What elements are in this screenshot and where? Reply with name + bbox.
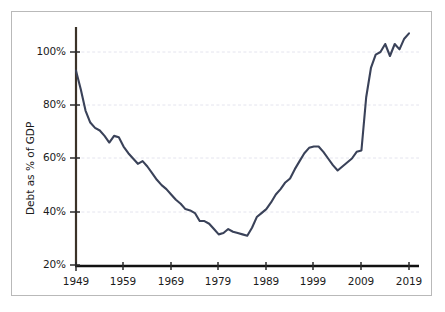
chart-figure: 100% 80% 60% 40% 20% 1949 1959 1969 1979… xyxy=(0,0,445,312)
y-tick-label-20: 20% xyxy=(26,258,66,270)
debt-gdp-line xyxy=(76,33,409,235)
x-tick-label-1989: 1989 xyxy=(242,275,290,287)
y-tick-label-100: 100% xyxy=(26,45,66,57)
x-tick-label-2019: 2019 xyxy=(385,275,433,287)
x-tick-label-1999: 1999 xyxy=(289,275,337,287)
x-tick-label-2009: 2009 xyxy=(337,275,385,287)
x-tick-label-1979: 1979 xyxy=(194,275,242,287)
y-tick-label-80: 80% xyxy=(26,98,66,110)
x-tick-label-1959: 1959 xyxy=(99,275,147,287)
chart-plot-area xyxy=(0,0,445,312)
x-tick-label-1969: 1969 xyxy=(147,275,195,287)
x-tick-label-1949: 1949 xyxy=(52,275,100,287)
y-axis-title: Debt as % of GDP xyxy=(24,122,36,215)
gridlines xyxy=(76,52,419,212)
